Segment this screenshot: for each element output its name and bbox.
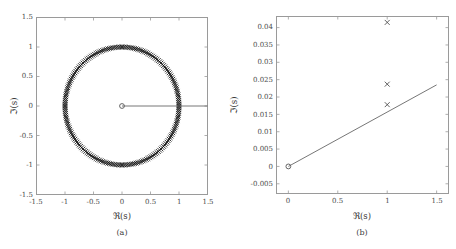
ytick-label-b: 0.005 — [236, 146, 273, 153]
xtick-label-b: 0.5 — [332, 198, 343, 205]
ytick-label-b: 0.025 — [236, 76, 273, 83]
ytick-label-b: 0.02 — [236, 94, 273, 101]
xtick-label-b: 1 — [385, 198, 389, 205]
ytick-label-b: 0.035 — [236, 41, 273, 48]
plot-canvas-b — [228, 0, 456, 249]
ytick-label-b: 0.04 — [236, 24, 273, 31]
ytick-label-b: 0.015 — [236, 111, 273, 118]
y-axis-title-b: ℑ(s) — [229, 85, 239, 125]
ytick-label-b: 0 — [236, 163, 273, 170]
y-axis-title-a: ℑ(s) — [9, 86, 19, 126]
ytick-label-a: -1 — [8, 162, 33, 169]
xtick-label-a: 1.5 — [202, 199, 213, 206]
ytick-label-a: -0.5 — [8, 132, 33, 139]
x-axis-title-b: ℜ(s) — [353, 211, 371, 221]
ytick-label-b: 0.01 — [236, 128, 273, 135]
ytick-label-a: 0.5 — [8, 73, 33, 80]
xtick-label-b: 1.5 — [432, 198, 443, 205]
xtick-label-a: 0 — [120, 199, 124, 206]
xtick-label-a: 0.5 — [145, 199, 156, 206]
xtick-label-b: 0 — [286, 198, 290, 205]
panel-caption-b: (b) — [356, 228, 367, 237]
xtick-label-a: -0.5 — [87, 199, 101, 206]
ytick-label-a: 1 — [8, 43, 33, 50]
ytick-label-a: 1.5 — [8, 14, 33, 21]
xtick-label-a: 1 — [177, 199, 181, 206]
figure-container: 1.5 1 0.5 0 -0.5 -1 -1.5 -1.5 -1 -0.5 0 … — [0, 0, 456, 249]
panel-a: 1.5 1 0.5 0 -0.5 -1 -1.5 -1.5 -1 -0.5 0 … — [0, 0, 228, 249]
ytick-label-b: 0.03 — [236, 59, 273, 66]
panel-caption-a: (a) — [116, 228, 127, 237]
xtick-label-a: -1.5 — [29, 199, 43, 206]
panel-b: 0.04 0.035 0.03 0.025 0.02 0.015 0.01 0.… — [228, 0, 456, 249]
xtick-label-a: -1 — [61, 199, 68, 206]
ytick-label-b: -0.005 — [236, 181, 273, 188]
x-axis-title-a: ℜ(s) — [113, 211, 131, 221]
